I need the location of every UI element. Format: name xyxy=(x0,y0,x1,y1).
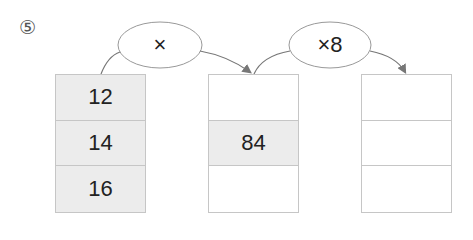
column-middle: 84 xyxy=(208,74,299,213)
output-cell-1[interactable] xyxy=(362,75,451,121)
output-cell-3[interactable] xyxy=(362,166,451,212)
operation-2-label: ×8 xyxy=(289,22,371,68)
column-output xyxy=(361,74,452,213)
output-cell-2[interactable] xyxy=(362,121,451,167)
input-cell-3: 16 xyxy=(56,166,145,212)
input-cell-1: 12 xyxy=(56,75,145,121)
middle-cell-3[interactable] xyxy=(209,166,298,212)
middle-cell-1[interactable] xyxy=(209,75,298,121)
operation-1-label: × xyxy=(118,22,202,68)
column-input: 12 14 16 xyxy=(55,74,146,213)
input-cell-2: 14 xyxy=(56,121,145,167)
middle-cell-2: 84 xyxy=(209,121,298,167)
